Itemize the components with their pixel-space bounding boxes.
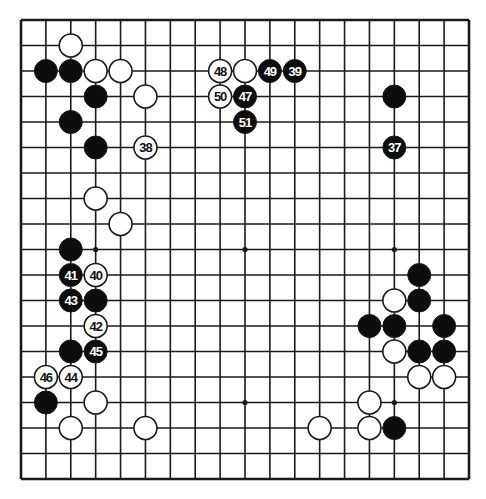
white-stone: 50	[209, 85, 232, 108]
white-stone: 40	[84, 264, 107, 287]
black-stone	[383, 315, 406, 338]
move-number: 45	[89, 344, 102, 359]
move-number: 50	[214, 89, 227, 104]
move-number: 39	[289, 64, 302, 79]
black-stone: 39	[283, 60, 306, 83]
white-stone	[358, 417, 381, 440]
black-stone	[433, 340, 456, 363]
white-stone: 42	[84, 315, 107, 338]
white-stone: 44	[59, 366, 82, 389]
white-stone	[383, 289, 406, 312]
move-number: 47	[239, 89, 252, 104]
white-stone	[109, 213, 132, 236]
black-stone: 47	[234, 85, 257, 108]
white-stone	[109, 60, 132, 83]
black-stone: 51	[234, 111, 257, 134]
black-stone: 37	[383, 136, 406, 159]
black-stone	[383, 85, 406, 108]
move-number: 42	[89, 319, 102, 334]
black-stone: 41	[59, 264, 82, 287]
black-stone	[84, 85, 107, 108]
black-stone	[59, 238, 82, 261]
black-stone	[408, 289, 431, 312]
black-stone: 49	[258, 60, 281, 83]
black-stone	[34, 391, 57, 414]
white-stone	[383, 340, 406, 363]
black-stone	[59, 60, 82, 83]
black-stone	[59, 340, 82, 363]
white-stone	[84, 391, 107, 414]
white-stone	[134, 417, 157, 440]
white-stone	[433, 366, 456, 389]
black-stone	[84, 289, 107, 312]
white-stone: 38	[134, 136, 157, 159]
star-point	[242, 247, 247, 252]
black-stone	[408, 340, 431, 363]
white-stone	[234, 60, 257, 83]
star-point	[242, 400, 247, 405]
move-number: 41	[65, 268, 78, 283]
move-number: 49	[264, 64, 277, 79]
black-stone: 45	[84, 340, 107, 363]
star-point	[392, 400, 397, 405]
black-stone	[433, 315, 456, 338]
white-stone	[59, 34, 82, 57]
black-stone: 43	[59, 289, 82, 312]
star-point	[392, 247, 397, 252]
black-stone	[34, 60, 57, 83]
black-stone	[383, 417, 406, 440]
white-stone	[84, 60, 107, 83]
white-stone: 46	[34, 366, 57, 389]
move-number: 43	[65, 293, 78, 308]
black-stone	[59, 111, 82, 134]
move-number: 48	[214, 64, 227, 79]
move-number: 38	[139, 140, 152, 155]
white-stone	[408, 366, 431, 389]
move-number: 46	[40, 370, 53, 385]
black-stone	[84, 136, 107, 159]
star-point	[93, 247, 98, 252]
go-board: 384849395047513741404342454644	[0, 0, 486, 499]
white-stone	[308, 417, 331, 440]
white-stone: 48	[209, 60, 232, 83]
move-number: 37	[388, 140, 401, 155]
white-stone	[84, 187, 107, 210]
move-number: 40	[89, 268, 102, 283]
black-stone	[408, 264, 431, 287]
white-stone	[134, 85, 157, 108]
white-stone	[358, 391, 381, 414]
move-number: 51	[239, 115, 252, 130]
black-stone	[358, 315, 381, 338]
move-number: 44	[65, 370, 79, 385]
white-stone	[59, 417, 82, 440]
